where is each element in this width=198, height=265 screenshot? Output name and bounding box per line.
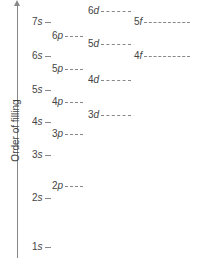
orbital-6p: 6p [52,31,83,41]
energy-level-line [45,90,51,91]
subshell-letter: p [58,180,64,191]
orbital-4s: 4s [32,117,51,127]
energy-level-line [65,36,83,37]
subshell-letter: s [38,192,43,203]
orbital-6s: 6s [32,51,51,61]
orbital-4d: 4d [88,75,131,85]
subshell-letter: s [38,149,43,160]
orbital-4p: 4p [52,97,83,107]
subshell-letter: s [38,16,43,27]
orbital-2s: 2s [32,193,51,203]
subshell-letter: d [94,74,100,85]
energy-level-line [65,69,83,70]
energy-level-line [101,11,131,12]
subshell-letter: p [58,63,64,74]
energy-level-line [45,22,51,23]
energy-level-line [45,56,51,57]
orbital-4f: 4f [134,51,190,61]
energy-level-line [45,155,51,156]
orbital-3p: 3p [52,129,83,139]
orbital-2p: 2p [52,181,83,191]
orbital-5p: 5p [52,64,83,74]
subshell-letter: s [38,116,43,127]
energy-level-line [45,198,51,199]
subshell-letter: f [140,16,143,27]
subshell-letter: s [38,241,43,252]
energy-level-line [65,102,83,103]
energy-level-line [144,22,190,23]
subshell-letter: s [38,84,43,95]
energy-level-line [101,115,131,116]
subshell-letter: s [38,50,43,61]
orbital-6d: 6d [88,6,131,16]
energy-level-line [144,56,190,57]
subshell-letter: p [58,96,64,107]
orbital-7s: 7s [32,17,51,27]
subshell-letter: p [58,128,64,139]
orbital-5d: 5d [88,39,131,49]
energy-level-line [101,44,131,45]
energy-level-line [65,134,83,135]
energy-level-line [45,247,51,248]
subshell-letter: d [94,5,100,16]
orbital-5f: 5f [134,17,190,27]
subshell-letter: p [58,30,64,41]
orbital-5s: 5s [32,85,51,95]
axis-label: Order of filling [10,86,21,176]
energy-level-line [101,80,131,81]
subshell-letter: f [140,50,143,61]
orbital-3s: 3s [32,150,51,160]
orbital-1s: 1s [32,242,51,252]
subshell-letter: d [94,109,100,120]
subshell-letter: d [94,38,100,49]
energy-level-line [45,122,51,123]
orbital-3d: 3d [88,110,131,120]
energy-level-line [65,186,83,187]
